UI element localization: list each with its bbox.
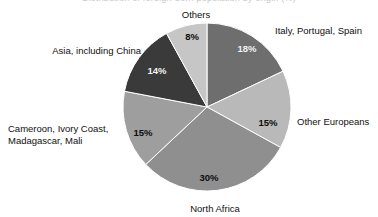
pie-label-north-africa: North Africa	[190, 203, 240, 215]
slice-value-other-europeans: 15%	[258, 117, 277, 128]
pie-label-others: Others	[182, 9, 211, 21]
pie-slices-group	[123, 23, 291, 191]
pie-label-cameroon-line-1: Cameroon, Ivory Coast,	[8, 123, 108, 134]
pie-label-italy-portugal-spain: Italy, Portugal, Spain	[275, 25, 362, 37]
pie-label-cameroon-ivory-coast-madagascar-mali: Cameroon, Ivory Coast, Madagascar, Mali	[8, 123, 138, 146]
pie-label-other-europeans: Other Europeans	[297, 116, 369, 128]
slice-value-others: 8%	[185, 31, 199, 42]
pie-chart-figure: Distribution of foreign-born population …	[0, 0, 378, 217]
pie-label-cameroon-line-2: Madagascar, Mali	[8, 135, 82, 146]
slice-value-north-africa: 30%	[199, 172, 218, 183]
slice-value-asia-including-china: 14%	[147, 65, 166, 76]
slice-value-italy-portugal-spain: 18%	[237, 43, 256, 54]
pie-label-asia-including-china: Asia, including China	[52, 45, 141, 57]
